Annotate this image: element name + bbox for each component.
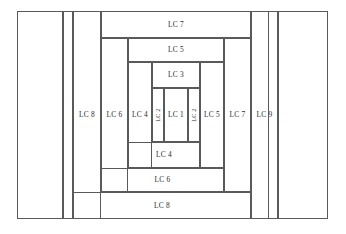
block-label: LC 5 — [168, 46, 184, 53]
block-lc7-right: LC 7 — [224, 38, 251, 192]
log-cabin-diagram: LC 8LC 9LC 7LC 8LC 7LC 6LC 5LC 6LC 5LC 4… — [0, 0, 346, 234]
block-label: LC 8 — [154, 202, 170, 209]
block-lc5-top: LC 5 — [128, 38, 224, 62]
block-outer-right-gap — [268, 11, 278, 219]
block-label: LC 7 — [168, 21, 184, 28]
block-lc5-right: LC 5 — [200, 62, 224, 168]
block-lc8-left: LC 8 — [73, 11, 101, 219]
block-lc2-left: LC 2 — [152, 88, 164, 142]
block-label: LC 3 — [168, 71, 184, 78]
block-outer-right-panel — [278, 11, 328, 219]
block-lc2-right: LC 2 — [188, 88, 200, 142]
block-lc7-top: LC 7 — [101, 11, 251, 38]
block-label: LC 5 — [204, 111, 220, 118]
block-outer-left-panel — [17, 11, 63, 219]
block-label: LC 7 — [230, 111, 246, 118]
block-lc4-bottom: LC 4 — [128, 142, 200, 168]
block-label: LC 2 — [191, 108, 197, 121]
block-label: LC 4 — [132, 111, 148, 118]
block-outer-left-gap — [63, 11, 73, 219]
block-lc3-top: LC 3 — [152, 62, 200, 88]
block-label: LC 8 — [79, 111, 95, 118]
block-label: LC 4 — [156, 151, 172, 158]
block-label: LC 2 — [155, 108, 161, 121]
block-label: LC 6 — [107, 111, 123, 118]
block-lc6-bottom: LC 6 — [101, 168, 224, 192]
block-label: LC 1 — [168, 111, 184, 118]
block-label: LC 6 — [155, 176, 171, 183]
block-lc1-center: LC 1 — [164, 88, 188, 142]
block-lc8-bottom: LC 8 — [73, 192, 251, 219]
